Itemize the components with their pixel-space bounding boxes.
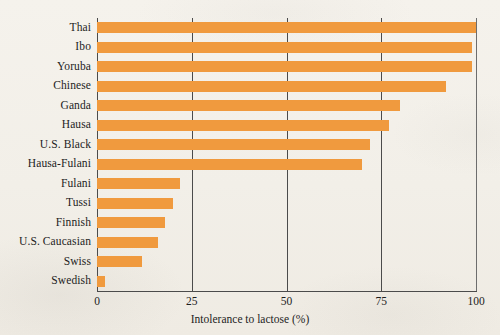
bar-row [97, 256, 476, 267]
y-axis-label-hausa-fulani: Hausa-Fulani [0, 157, 91, 169]
x-axis-title: Intolerance to lactose (%) [0, 313, 500, 325]
bar-hausa [97, 120, 389, 131]
y-axis-label-swiss: Swiss [0, 255, 91, 267]
x-tick-label-75: 75 [376, 295, 388, 307]
y-axis-label-hausa: Hausa [0, 118, 91, 130]
x-tick-label-50: 50 [281, 295, 293, 307]
lactose-intolerance-bar-chart: Intolerance to lactose (%) ThaiIboYoruba… [0, 0, 500, 335]
x-tick-label-100: 100 [467, 295, 484, 307]
y-axis-label-swedish: Swedish [0, 274, 91, 286]
bar-chinese [97, 81, 446, 92]
y-axis-label-ibo: Ibo [0, 40, 91, 52]
bar-row [97, 159, 476, 170]
bar-thai [97, 22, 476, 33]
x-tick-label-0: 0 [94, 295, 100, 307]
y-axis-label-yoruba: Yoruba [0, 60, 91, 72]
bar-row [97, 139, 476, 150]
gridline-100 [476, 18, 477, 291]
x-axis-line [97, 291, 477, 292]
bar-row [97, 217, 476, 228]
bar-u-s-caucasian [97, 237, 158, 248]
bar-row [97, 237, 476, 248]
x-tick-label-25: 25 [186, 295, 198, 307]
y-axis-label-u-s-caucasian: U.S. Caucasian [0, 235, 91, 247]
gridline-75 [381, 18, 382, 291]
bar-row [97, 178, 476, 189]
y-axis-label-fulani: Fulani [0, 177, 91, 189]
bar-row [97, 100, 476, 111]
bar-ibo [97, 42, 472, 53]
bar-finnish [97, 217, 165, 228]
gridline-50 [287, 18, 288, 291]
bar-row [97, 61, 476, 72]
y-axis-label-ganda: Ganda [0, 99, 91, 111]
bar-row [97, 81, 476, 92]
y-axis-label-tussi: Tussi [0, 196, 91, 208]
bar-row [97, 198, 476, 209]
bar-fulani [97, 178, 180, 189]
gridline-0 [97, 18, 98, 291]
bar-swiss [97, 256, 142, 267]
y-axis-label-chinese: Chinese [0, 79, 91, 91]
bar-row [97, 22, 476, 33]
bar-u-s-black [97, 139, 370, 150]
gridline-25 [192, 18, 193, 291]
bar-swedish [97, 276, 105, 287]
bar-hausa-fulani [97, 159, 362, 170]
bar-row [97, 276, 476, 287]
bar-yoruba [97, 61, 472, 72]
bar-tussi [97, 198, 173, 209]
y-axis-label-u-s-black: U.S. Black [0, 138, 91, 150]
bar-row [97, 120, 476, 131]
plot-area [97, 18, 476, 291]
bar-ganda [97, 100, 400, 111]
bar-row [97, 42, 476, 53]
y-axis-label-thai: Thai [0, 21, 91, 33]
y-axis-label-finnish: Finnish [0, 216, 91, 228]
